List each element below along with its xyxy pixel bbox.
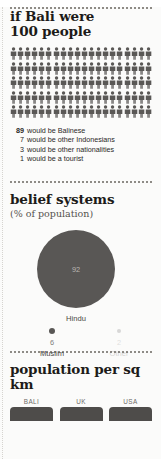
bubble-hindu-value: 92	[72, 265, 80, 274]
person-icon	[109, 62, 116, 75]
person-icon	[31, 47, 38, 60]
person-icon	[74, 91, 81, 104]
person-icon	[17, 47, 24, 60]
person-icon	[67, 47, 74, 60]
person-icon	[131, 105, 138, 118]
person-icon	[24, 76, 31, 89]
person-icon	[109, 76, 116, 89]
person-icon	[124, 62, 131, 75]
person-icon	[53, 91, 60, 104]
page-title-line-2: 100 people	[10, 23, 91, 39]
person-icon	[53, 76, 60, 89]
person-icon	[102, 62, 109, 75]
bubble-muslim-label: Muslim	[40, 349, 64, 358]
person-icon	[145, 76, 152, 89]
person-icon	[81, 76, 88, 89]
person-icon	[53, 105, 60, 118]
population-bar-column: BALI	[10, 398, 53, 421]
person-icon	[102, 47, 109, 60]
person-icon	[45, 76, 52, 89]
person-icon	[60, 76, 67, 89]
person-icon	[138, 105, 145, 118]
legend-count: 89	[10, 126, 24, 135]
page-title-line-1: if Bali were	[10, 8, 94, 24]
divider-belief	[10, 181, 152, 183]
person-icon	[17, 105, 24, 118]
person-icon	[74, 76, 81, 89]
population-bar-column: USA	[109, 398, 152, 421]
person-icon	[10, 47, 17, 60]
person-icon	[17, 62, 24, 75]
person-icon	[60, 91, 67, 104]
person-icon	[88, 76, 95, 89]
bubble-other-value: 2	[117, 338, 121, 347]
infographic-page: if Bali were 100 people 89would be Balin…	[0, 7, 161, 459]
person-icon	[138, 76, 145, 89]
person-icon	[109, 47, 116, 60]
belief-systems-title: belief systems	[10, 192, 152, 207]
person-icon	[31, 76, 38, 89]
person-icon	[95, 47, 102, 60]
person-icon	[67, 91, 74, 104]
person-icon	[88, 62, 95, 75]
belief-systems-section: belief systems (% of population) 92 Hind…	[10, 181, 152, 342]
person-icon	[45, 91, 52, 104]
person-icon	[67, 76, 74, 89]
bubble-hindu-label: Hindu	[66, 314, 86, 323]
person-icon	[138, 91, 145, 104]
legend-label: would be other nationalities	[27, 145, 114, 154]
person-icon	[38, 91, 45, 104]
population-bar	[60, 407, 103, 421]
person-icon	[124, 47, 131, 60]
person-icon	[81, 62, 88, 75]
person-icon	[116, 76, 123, 89]
person-icon	[45, 47, 52, 60]
person-icon	[145, 105, 152, 118]
pictogram-legend: 89would be Balinese7would be other Indon…	[10, 126, 152, 164]
legend-label: would be Balinese	[27, 126, 85, 135]
person-icon	[17, 91, 24, 104]
belief-systems-bubble-chart: 92 Hindu 6 Muslim 2 Other	[10, 224, 152, 342]
population-bar	[10, 407, 53, 421]
legend-row: 3would be other nationalities	[10, 145, 152, 154]
left-edge-dotted-rule	[2, 7, 4, 459]
person-icon	[102, 91, 109, 104]
person-icon	[31, 91, 38, 104]
legend-row: 1would be a tourist	[10, 154, 152, 163]
person-icon	[116, 47, 123, 60]
person-icon	[10, 76, 17, 89]
person-icon	[38, 47, 45, 60]
divider-population	[10, 351, 152, 353]
person-icon	[102, 76, 109, 89]
legend-row: 89would be Balinese	[10, 126, 152, 135]
belief-systems-subtitle: (% of population)	[10, 208, 152, 220]
person-icon	[60, 105, 67, 118]
person-icon	[81, 91, 88, 104]
person-icon	[95, 91, 102, 104]
person-icon	[17, 76, 24, 89]
population-section: population per sq km BALIUKUSA	[10, 351, 152, 421]
person-icon	[31, 62, 38, 75]
person-icon	[145, 62, 152, 75]
person-icon	[131, 47, 138, 60]
person-icon	[81, 47, 88, 60]
legend-row: 7would be other Indonesians	[10, 135, 152, 144]
person-icon	[53, 62, 60, 75]
population-bar-label: UK	[60, 398, 103, 405]
person-icon	[74, 47, 81, 60]
bubble-muslim-value: 6	[50, 338, 54, 347]
person-icon	[88, 91, 95, 104]
person-icon	[124, 91, 131, 104]
person-icon	[145, 91, 152, 104]
person-icon	[88, 47, 95, 60]
person-icon	[74, 62, 81, 75]
person-icon	[38, 105, 45, 118]
person-icon	[109, 105, 116, 118]
bubble-other-label: Other	[110, 349, 129, 358]
person-icon	[131, 91, 138, 104]
person-icon	[38, 76, 45, 89]
person-icon	[124, 105, 131, 118]
legend-label: would be other Indonesians	[27, 135, 115, 144]
person-icon	[116, 105, 123, 118]
person-icon	[10, 105, 17, 118]
